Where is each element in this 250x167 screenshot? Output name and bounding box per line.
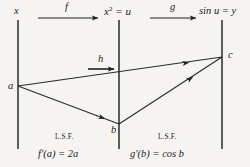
map-arrow-label-g: g: [170, 2, 175, 13]
point-label-c: c: [228, 50, 233, 61]
point-label-b: b: [111, 125, 116, 136]
axis-label-codomain-y: sin u = y: [199, 6, 236, 17]
diagram-canvas: [0, 0, 250, 167]
derivative-formula-right: g′(b) = cos b: [130, 149, 184, 160]
segment-a-to-c: [18, 57, 222, 86]
map-arrow-lines: [38, 18, 196, 69]
axis-lines: [18, 20, 222, 149]
map-arrow-label-f: f: [65, 2, 68, 13]
map-arrow-label-h: h: [98, 54, 103, 65]
segment-b-to-c: [119, 57, 222, 124]
point-label-a: a: [8, 81, 13, 92]
segment-lines: [18, 57, 222, 124]
lsf-heading-left: L.S.F.: [55, 134, 73, 141]
arrowhead-a-to-b: [98, 114, 106, 121]
derivative-formula-left: f′(a) = 2a: [38, 149, 78, 160]
mapping-diagram: x x2 = u sin u = y f g h a b c L.S.F. f′…: [0, 0, 250, 167]
lsf-heading-right: L.S.F.: [158, 134, 176, 141]
axis-label-domain-u: x2 = u: [104, 6, 131, 18]
arrowhead-a-to-c: [182, 60, 190, 66]
axis-label-domain-u-tail: = u: [112, 5, 130, 17]
axis-label-domain-x: x: [14, 6, 19, 17]
